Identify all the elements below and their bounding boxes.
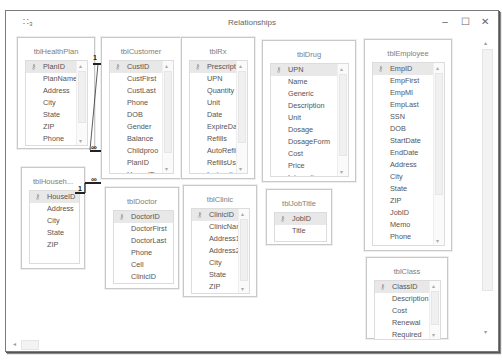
scroll-left-icon[interactable]: ◂ <box>13 340 16 347</box>
maximize-button[interactable]: ☐ <box>458 16 472 27</box>
vertical-scrollbar[interactable]: ▴ ▾ <box>479 35 495 339</box>
window-title: Relationships <box>6 18 498 27</box>
many-label: ∞ <box>91 143 97 152</box>
horizontal-scrollbar[interactable]: ◂ <box>9 339 479 351</box>
close-button[interactable]: ✕ <box>478 16 492 27</box>
scroll-thumb[interactable] <box>21 340 39 350</box>
scroll-down-icon[interactable]: ▾ <box>484 328 487 335</box>
scroll-up-icon[interactable]: ▴ <box>484 39 487 46</box>
relationships-canvas[interactable]: tblHealthPlan ⚷PlanID PlanName Address C… <box>9 35 479 339</box>
scroll-thumb[interactable] <box>482 49 493 291</box>
relationships-window: ∷₃ Relationships – ☐ ✕ tblHealthPlan ⚷Pl… <box>5 10 499 352</box>
minimize-button[interactable]: – <box>438 16 452 27</box>
many-label: ∞ <box>91 175 97 184</box>
title-bar[interactable]: ∷₃ Relationships – ☐ ✕ <box>6 11 498 35</box>
one-label: 1 <box>78 185 82 192</box>
